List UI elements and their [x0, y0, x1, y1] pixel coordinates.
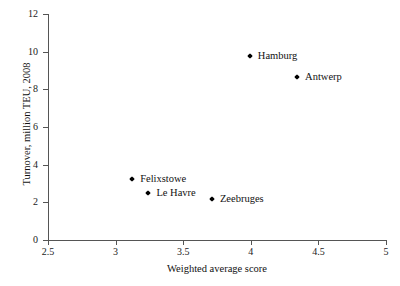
diamond-marker-icon [247, 53, 253, 59]
x-tick-label: 2.5 [28, 246, 68, 257]
x-tick-label: 4 [231, 246, 271, 257]
y-tick-mark [43, 165, 48, 166]
x-axis-title: Weighted average score [48, 263, 386, 275]
data-point-label: Zeebruges [220, 193, 264, 205]
y-tick-mark [43, 14, 48, 15]
scatter-chart: 024681012 2.533.544.55 HamburgAntwerpFel… [0, 0, 400, 286]
diamond-marker-icon [129, 176, 135, 182]
y-tick-mark [43, 52, 48, 53]
diamond-marker-icon [294, 74, 300, 80]
x-tick-label: 3.5 [163, 246, 203, 257]
x-tick-label: 5 [366, 246, 400, 257]
x-tick-label: 3 [96, 246, 136, 257]
data-point-label: Le Havre [156, 187, 195, 199]
x-axis-line [48, 240, 386, 241]
x-tick-mark [116, 240, 117, 245]
y-tick-label: 12 [8, 9, 38, 19]
data-point-label: Hamburg [258, 50, 297, 62]
diamond-marker-icon [209, 197, 215, 203]
x-tick-mark [48, 240, 49, 245]
y-tick-label: 0 [8, 235, 38, 245]
x-tick-mark [183, 240, 184, 245]
y-tick-mark [43, 127, 48, 128]
y-tick-mark [43, 89, 48, 90]
data-point-label: Antwerp [305, 71, 342, 83]
x-tick-mark [251, 240, 252, 245]
y-axis-title: Turnover, million TEU, 2008 [21, 24, 33, 224]
y-tick-mark [43, 202, 48, 203]
data-point-label: Felixstowe [140, 173, 186, 185]
x-tick-label: 4.5 [298, 246, 338, 257]
x-tick-mark [318, 240, 319, 245]
x-tick-mark [386, 240, 387, 245]
diamond-marker-icon [146, 190, 152, 196]
y-axis-line [48, 14, 49, 241]
